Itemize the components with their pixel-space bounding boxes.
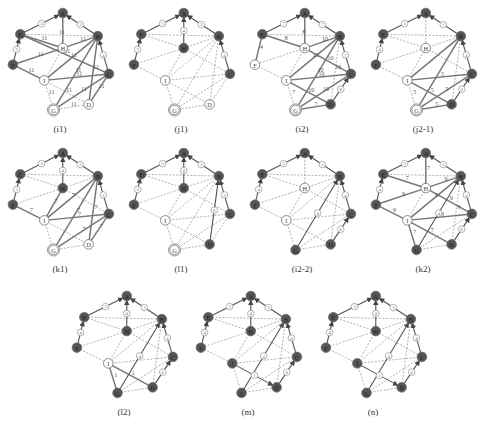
node-I: I xyxy=(161,216,171,226)
node-F: F xyxy=(196,343,206,353)
node-label: B xyxy=(96,173,100,180)
node-label: E xyxy=(82,314,86,321)
edges xyxy=(13,13,109,110)
node-label: B xyxy=(338,33,342,40)
weight-label: 10 xyxy=(328,55,334,61)
dashed-edge-GD xyxy=(367,387,402,393)
node-I: I xyxy=(40,216,50,226)
weight-label: 7 xyxy=(292,89,295,95)
weight-label: 1 xyxy=(114,372,117,378)
panel-caption: (i2-2) xyxy=(242,264,362,274)
weight-label: 11 xyxy=(80,36,86,42)
node-D: D xyxy=(148,383,158,393)
node-label: I xyxy=(231,360,233,367)
node-label: G xyxy=(51,247,56,254)
node-label: A xyxy=(423,150,428,157)
node-C: C xyxy=(467,209,477,219)
node-label: G xyxy=(51,107,56,114)
node-C: C xyxy=(168,352,178,362)
dashed-edge-GC xyxy=(175,214,230,250)
node-A: A xyxy=(122,291,132,301)
dashed-edge-BD xyxy=(331,176,340,244)
weight-label: 7 xyxy=(406,175,409,181)
node-G: G xyxy=(47,244,59,256)
solid-edge-HI xyxy=(44,188,62,220)
node-A: A xyxy=(421,8,431,18)
dashed-edge-GC xyxy=(175,74,230,110)
graph-i2-2: 334464ABCDGIFEH xyxy=(242,140,362,262)
weight-label: 11 xyxy=(71,101,77,107)
node-C: C xyxy=(104,209,114,219)
panel-caption: (i1) xyxy=(0,124,120,134)
node-G: G xyxy=(168,244,180,256)
panel-caption: (j1) xyxy=(121,124,241,134)
dashed-edge-FH xyxy=(376,48,426,65)
graph-i1: 1111111111111111111111111111113334ABCDGI… xyxy=(0,0,120,122)
node-E: E xyxy=(329,312,339,322)
dashed-edge-FI xyxy=(376,65,407,81)
node-label: D xyxy=(449,101,454,108)
node-A: A xyxy=(246,291,256,301)
node-label: E xyxy=(381,171,385,178)
node-label: D xyxy=(449,241,454,248)
node-label: C xyxy=(228,211,232,218)
dashed-edge-BH xyxy=(184,36,219,48)
node-E: E xyxy=(16,29,26,39)
weight-label: 7 xyxy=(78,211,81,217)
graph-l1: 333346ABCDGIFEH xyxy=(121,140,241,262)
weight-label: 7 xyxy=(413,229,416,235)
node-label: F xyxy=(253,202,257,209)
solid-edge-BI xyxy=(407,36,461,80)
dashed-edge-FH xyxy=(134,48,184,65)
weight-label: 5 xyxy=(431,87,434,93)
node-B: B xyxy=(281,314,291,324)
node-A: A xyxy=(300,8,310,18)
panel-i1: 1111111111111111111111111111113334ABCDGI… xyxy=(0,0,120,140)
node-label: A xyxy=(302,150,307,157)
node-D: D xyxy=(447,240,457,250)
node-label: D xyxy=(399,384,404,391)
node-D: D xyxy=(272,383,282,393)
node-E: E xyxy=(137,169,147,179)
node-label: D xyxy=(86,241,91,248)
dashed-edge-EB xyxy=(20,174,98,176)
node-G: G xyxy=(47,104,59,116)
node-H: H xyxy=(122,326,132,336)
weight-label: 9 xyxy=(402,191,405,197)
edges xyxy=(376,153,472,250)
node-H: H xyxy=(58,43,68,53)
panel-caption: (k1) xyxy=(0,264,120,274)
node-label: H xyxy=(124,328,129,335)
node-label: B xyxy=(217,33,221,40)
weight-label: 8 xyxy=(285,35,288,41)
dashed-edge-EB xyxy=(84,317,162,319)
node-label: D xyxy=(328,241,333,248)
weight-label: 9 xyxy=(435,192,438,198)
panel-m: 33446441ABCDGIFEH (m) xyxy=(188,283,308,423)
weight-label: 10 xyxy=(322,36,328,42)
edges xyxy=(255,13,351,110)
node-label: B xyxy=(459,33,463,40)
node-D: D xyxy=(205,100,215,110)
panel-caption: (i2) xyxy=(242,124,362,134)
node-label: D xyxy=(207,101,212,108)
node-label: A xyxy=(181,10,186,17)
node-label: C xyxy=(470,71,474,78)
node-label: I xyxy=(164,77,166,84)
node-I: I xyxy=(282,76,292,86)
node-G: G xyxy=(410,104,422,116)
weight-label: 7 xyxy=(72,192,75,198)
node-F: F xyxy=(371,200,381,210)
graph-l2: 113344644ABCDGIFEH xyxy=(64,283,184,405)
dashed-edge-BD xyxy=(153,319,162,387)
node-label: F xyxy=(75,345,79,352)
node-H: H xyxy=(371,326,381,336)
node-label: A xyxy=(60,10,65,17)
node-B: B xyxy=(93,171,103,181)
dashed-edge-HI xyxy=(232,331,250,363)
node-label: A xyxy=(124,293,129,300)
node-label: E xyxy=(260,31,264,38)
node-G: G xyxy=(113,388,123,398)
node-F: F xyxy=(8,200,18,210)
node-label: E xyxy=(139,31,143,38)
